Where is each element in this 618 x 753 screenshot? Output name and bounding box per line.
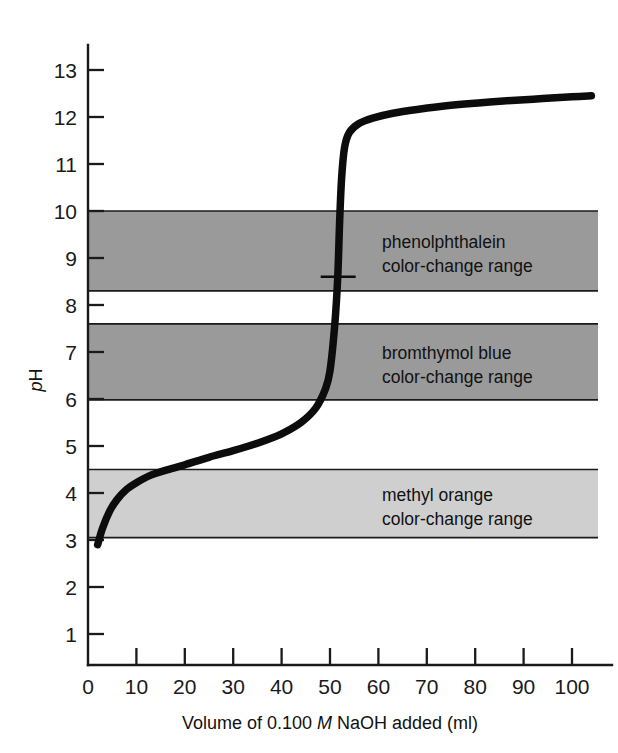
x-tick-label-60: 60 (367, 675, 390, 698)
x-axis-title-post: NaOH added (ml) (332, 713, 478, 733)
x-tick-label-100: 100 (554, 675, 589, 698)
y-tick-label-11: 11 (55, 153, 77, 176)
y-tick-label-1: 1 (65, 623, 77, 646)
band-label-bromthymol-blue-line1: bromthymol blue (382, 343, 511, 363)
x-tick-label-0: 0 (82, 675, 94, 698)
x-tick-label-30: 30 (222, 675, 245, 698)
y-axis-title: pH (26, 368, 46, 392)
y-tick-label-9: 9 (65, 247, 77, 270)
titration-chart-svg: 12345678910111213 0102030405060708090100… (0, 0, 618, 753)
band-label-methyl-orange-line2: color-change range (382, 509, 533, 529)
x-tick-label-20: 20 (173, 675, 196, 698)
x-tick-label-10: 10 (125, 675, 148, 698)
y-tick-label-2: 2 (65, 576, 77, 599)
band-label-bromthymol-blue-line2: color-change range (382, 367, 533, 387)
y-axis-title-italic: p (26, 381, 46, 392)
y-tick-label-6: 6 (65, 388, 77, 411)
band-label-methyl-orange-line1: methyl orange (382, 485, 493, 505)
y-tick-label-8: 8 (65, 294, 77, 317)
x-tick-label-40: 40 (270, 675, 293, 698)
y-axis-title-roman: H (26, 368, 46, 381)
y-tick-label-7: 7 (65, 341, 77, 364)
y-tick-label-4: 4 (65, 482, 77, 505)
band-label-phenolphthalein-line1: phenolphthalein (382, 232, 506, 252)
y-tick-label-3: 3 (65, 529, 77, 552)
x-axis-title: Volume of 0.100 M NaOH added (ml) (182, 713, 478, 733)
x-axis-title-pre: Volume of 0.100 (182, 713, 317, 733)
x-tick-label-90: 90 (512, 675, 535, 698)
y-tick-label-10: 10 (54, 200, 77, 223)
x-tick-label-50: 50 (318, 675, 341, 698)
x-tick-label-80: 80 (464, 675, 487, 698)
band-label-phenolphthalein-line2: color-change range (382, 256, 533, 276)
y-tick-label-13: 13 (54, 59, 77, 82)
y-tick-label-12: 12 (54, 106, 77, 129)
x-tick-label-70: 70 (415, 675, 438, 698)
y-tick-label-5: 5 (65, 435, 77, 458)
titration-curve-figure: 12345678910111213 0102030405060708090100… (0, 0, 618, 753)
y-axis-ticks-group: 12345678910111213 (54, 59, 104, 646)
band-bromthymol-blue (88, 324, 598, 400)
x-axis-ticks-group: 0102030405060708090100 (82, 648, 589, 698)
x-axis-title-italic: M (317, 713, 332, 733)
